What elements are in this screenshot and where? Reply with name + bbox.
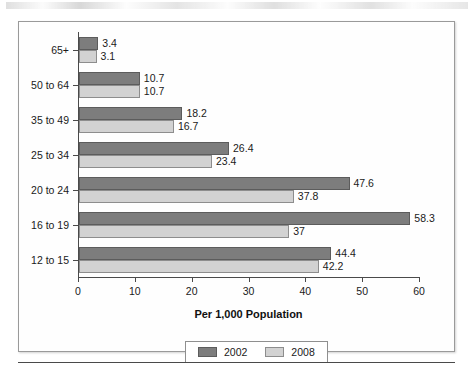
x-axis-tick-label: 20 — [186, 285, 198, 297]
legend-item-2002[interactable]: 2002 — [198, 346, 247, 358]
x-axis-tick-label: 30 — [243, 285, 255, 297]
axis-region: 65+3.43.150 to 6410.710.735 to 4918.216.… — [78, 32, 419, 277]
x-axis-tick — [78, 277, 79, 282]
bar-2008-65+[interactable] — [79, 50, 97, 63]
chart-figure-frame: 65+3.43.150 to 6410.710.735 to 4918.216.… — [18, 21, 455, 352]
footer-rule — [18, 362, 455, 363]
x-axis-tick — [362, 277, 363, 282]
x-axis-tick — [135, 277, 136, 282]
category-tick — [73, 155, 78, 156]
bar-2008-12-to-15[interactable] — [79, 260, 319, 273]
category-tick — [73, 120, 78, 121]
x-axis-tick — [419, 277, 420, 282]
category-label: 12 to 15 — [31, 254, 69, 266]
bar-value-label: 16.7 — [178, 120, 198, 132]
x-axis-tick-label: 0 — [75, 285, 81, 297]
bar-2002-65+[interactable] — [79, 37, 98, 50]
bar-2008-25-to-34[interactable] — [79, 155, 212, 168]
category-tick — [73, 190, 78, 191]
bar-2008-16-to-19[interactable] — [79, 225, 289, 238]
bar-value-label: 37.8 — [298, 190, 318, 202]
category-tick — [73, 225, 78, 226]
category-label: 50 to 64 — [31, 79, 69, 91]
scan-artifact-band — [6, 2, 468, 9]
bar-value-label: 3.4 — [102, 37, 117, 49]
bar-2008-20-to-24[interactable] — [79, 190, 294, 203]
x-axis-tick — [305, 277, 306, 282]
category-label: 65+ — [51, 44, 69, 56]
x-axis-tick — [192, 277, 193, 282]
bar-value-label: 26.4 — [233, 142, 253, 154]
category-label: 35 to 49 — [31, 114, 69, 126]
legend-item-2008[interactable]: 2008 — [265, 346, 314, 358]
bar-2002-35-to-49[interactable] — [79, 107, 182, 120]
bar-value-label: 10.7 — [144, 72, 164, 84]
bar-value-label: 10.7 — [144, 85, 164, 97]
bar-value-label: 37 — [293, 225, 305, 237]
x-axis-tick-label: 40 — [299, 285, 311, 297]
bar-2002-16-to-19[interactable] — [79, 212, 410, 225]
bar-2002-12-to-15[interactable] — [79, 247, 331, 260]
bar-2002-50-to-64[interactable] — [79, 72, 140, 85]
legend-label-2002: 2002 — [224, 346, 247, 358]
category-label: 25 to 34 — [31, 149, 69, 161]
bar-2008-35-to-49[interactable] — [79, 120, 174, 133]
category-tick — [73, 85, 78, 86]
bar-value-label: 58.3 — [414, 212, 434, 224]
bar-value-label: 44.4 — [335, 247, 355, 259]
bar-value-label: 47.6 — [354, 177, 374, 189]
legend-label-2008: 2008 — [291, 346, 314, 358]
x-axis-tick-label: 10 — [129, 285, 141, 297]
series-2002-swatch — [198, 347, 217, 357]
category-label: 16 to 19 — [31, 219, 69, 231]
x-axis-tick — [249, 277, 250, 282]
bar-2002-25-to-34[interactable] — [79, 142, 229, 155]
bar-2008-50-to-64[interactable] — [79, 85, 140, 98]
bar-value-label: 3.1 — [101, 50, 116, 62]
series-2008-swatch — [265, 347, 284, 357]
category-tick — [73, 50, 78, 51]
bar-value-label: 18.2 — [186, 107, 206, 119]
bar-2002-20-to-24[interactable] — [79, 177, 350, 190]
x-axis-title: Per 1,000 Population — [78, 308, 419, 320]
category-tick — [73, 260, 78, 261]
bar-value-label: 42.2 — [323, 260, 343, 272]
bar-value-label: 23.4 — [216, 155, 236, 167]
chart-legend: 2002 2008 — [185, 341, 328, 363]
x-axis-tick-label: 60 — [413, 285, 425, 297]
category-label: 20 to 24 — [31, 184, 69, 196]
x-axis-tick-label: 50 — [356, 285, 368, 297]
plot-area: 65+3.43.150 to 6410.710.735 to 4918.216.… — [78, 32, 438, 297]
